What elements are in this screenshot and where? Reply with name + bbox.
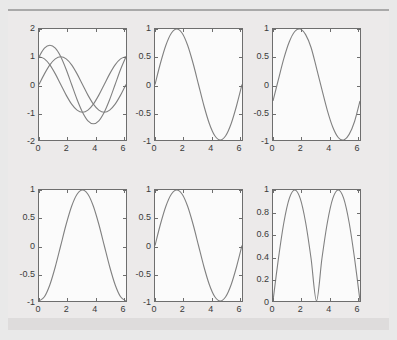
ytick-label: 1 bbox=[30, 185, 35, 194]
xtick-mark bbox=[240, 29, 241, 32]
curve-1 bbox=[273, 190, 360, 301]
xtick-mark bbox=[330, 298, 331, 301]
ytick-mark bbox=[155, 114, 158, 115]
xtick-mark bbox=[155, 190, 156, 193]
ytick-label: -1 bbox=[27, 298, 35, 307]
xtick-mark bbox=[358, 29, 359, 32]
xtick-label: 2 bbox=[64, 305, 69, 314]
ytick-label: 0 bbox=[264, 80, 269, 89]
ytick-mark bbox=[357, 213, 360, 214]
ytick-mark bbox=[39, 218, 42, 219]
xtick-label: 6 bbox=[120, 144, 125, 153]
ytick-mark bbox=[273, 258, 276, 259]
ytick-label: 2 bbox=[30, 24, 35, 33]
ytick-label: -1 bbox=[261, 137, 269, 146]
xtick-mark bbox=[273, 298, 274, 301]
xtick-mark bbox=[212, 298, 213, 301]
xtick-mark bbox=[183, 29, 184, 32]
xtick-label: 4 bbox=[326, 144, 331, 153]
xtick-label: 0 bbox=[35, 144, 40, 153]
xtick-label: 6 bbox=[236, 144, 241, 153]
ytick-label: -1 bbox=[143, 298, 151, 307]
xtick-mark bbox=[67, 137, 68, 140]
xtick-label: 0 bbox=[151, 144, 156, 153]
xtick-mark bbox=[301, 137, 302, 140]
ytick-mark bbox=[239, 86, 242, 87]
xtick-mark bbox=[240, 190, 241, 193]
xtick-mark bbox=[301, 29, 302, 32]
subplot-6[interactable]: 00.20.40.60.810246 bbox=[272, 189, 361, 302]
ytick-label: -0.5 bbox=[19, 269, 35, 278]
xtick-label: 2 bbox=[298, 305, 303, 314]
ytick-label: 1 bbox=[264, 24, 269, 33]
subplot-3[interactable]: -1-0.500.510246 bbox=[272, 28, 361, 141]
ytick-label: 0.5 bbox=[138, 213, 151, 222]
xtick-mark bbox=[67, 298, 68, 301]
xtick-mark bbox=[124, 29, 125, 32]
ytick-mark bbox=[273, 213, 276, 214]
xtick-mark bbox=[67, 29, 68, 32]
ytick-mark bbox=[239, 247, 242, 248]
ytick-label: 0.6 bbox=[256, 230, 269, 239]
xtick-mark bbox=[330, 137, 331, 140]
xtick-label: 0 bbox=[151, 305, 156, 314]
xtick-mark bbox=[240, 298, 241, 301]
xtick-mark bbox=[183, 190, 184, 193]
ytick-label: -1 bbox=[27, 108, 35, 117]
ytick-label: 1 bbox=[264, 185, 269, 194]
ytick-mark bbox=[357, 86, 360, 87]
ytick-mark bbox=[123, 218, 126, 219]
ytick-label: 0.5 bbox=[256, 52, 269, 61]
ytick-mark bbox=[357, 235, 360, 236]
xtick-mark bbox=[358, 190, 359, 193]
xtick-mark bbox=[96, 298, 97, 301]
ytick-label: 1 bbox=[146, 185, 151, 194]
xtick-mark bbox=[301, 190, 302, 193]
xtick-mark bbox=[39, 190, 40, 193]
xtick-label: 2 bbox=[180, 144, 185, 153]
ytick-label: -0.5 bbox=[253, 108, 269, 117]
xtick-mark bbox=[301, 298, 302, 301]
ytick-label: 0 bbox=[264, 298, 269, 307]
xtick-mark bbox=[240, 137, 241, 140]
xtick-mark bbox=[124, 190, 125, 193]
xtick-mark bbox=[155, 298, 156, 301]
xtick-mark bbox=[212, 137, 213, 140]
ytick-label: -0.5 bbox=[135, 269, 151, 278]
ytick-label: 0.8 bbox=[256, 207, 269, 216]
xtick-label: 2 bbox=[64, 144, 69, 153]
ytick-mark bbox=[155, 57, 158, 58]
xtick-label: 6 bbox=[120, 305, 125, 314]
ytick-label: 1 bbox=[30, 52, 35, 61]
ytick-mark bbox=[239, 218, 242, 219]
ytick-label: 1 bbox=[146, 24, 151, 33]
ytick-mark bbox=[357, 280, 360, 281]
ytick-mark bbox=[155, 218, 158, 219]
ytick-mark bbox=[273, 86, 276, 87]
xtick-mark bbox=[39, 137, 40, 140]
xtick-mark bbox=[124, 298, 125, 301]
xtick-mark bbox=[39, 298, 40, 301]
curve-1 bbox=[39, 57, 126, 113]
ytick-mark bbox=[123, 86, 126, 87]
xtick-mark bbox=[358, 298, 359, 301]
ytick-mark bbox=[155, 86, 158, 87]
xtick-mark bbox=[212, 29, 213, 32]
subplot-1[interactable]: -2-10120246 bbox=[38, 28, 127, 141]
curve-1 bbox=[39, 190, 126, 301]
ytick-mark bbox=[155, 275, 158, 276]
axes-6 bbox=[272, 189, 361, 302]
xtick-label: 6 bbox=[354, 305, 359, 314]
subplot-5[interactable]: -1-0.500.510246 bbox=[154, 189, 243, 302]
ytick-mark bbox=[357, 258, 360, 259]
subplot-2[interactable]: -1-0.500.510246 bbox=[154, 28, 243, 141]
ytick-mark bbox=[273, 114, 276, 115]
ytick-mark bbox=[239, 275, 242, 276]
xtick-mark bbox=[273, 137, 274, 140]
ytick-label: -0.5 bbox=[135, 108, 151, 117]
ytick-mark bbox=[123, 57, 126, 58]
ytick-mark bbox=[39, 57, 42, 58]
xtick-mark bbox=[330, 190, 331, 193]
subplot-4[interactable]: -1-0.500.510246 bbox=[38, 189, 127, 302]
axes-2 bbox=[154, 28, 243, 141]
